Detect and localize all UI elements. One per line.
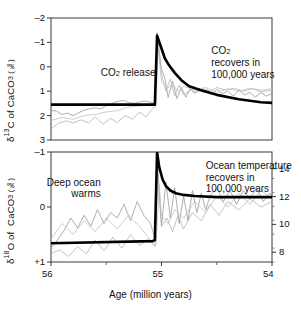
y-axis-label-delta13c: δ13C of CaCO3 (‰) [3,24,16,142]
x-tick-label: 55 [153,268,164,279]
y-tick-label: 0 [40,201,45,212]
annotation-line: Deep ocean [47,177,101,189]
y-tick-label: +1 [34,256,45,267]
annotation-co2-release: CO2 release [101,67,156,80]
right-axis-tick-label: 14 [279,163,290,174]
y-axis-label-delta18o: δ18O of CaCO3 (‰) [3,152,16,264]
right-axis-tick-label: 10 [279,218,290,229]
x-tick-label: 54 [263,268,274,279]
annotation-line: recovers in [211,57,274,69]
right-axis-tick-label: 12 [279,191,290,202]
y-tick-label: –1 [34,146,45,157]
y-tick-label: –2 [34,12,45,23]
x-tick-label: 56 [42,268,53,279]
annotation-line: 100,000 years [211,69,274,81]
x-axis-label: Age (million years) [0,289,301,300]
annotation-deep-ocean-warms: Deep ocean warms [47,177,101,200]
y-tick-label: 0 [40,61,45,72]
y-tick-label: 1 [40,85,45,96]
annotation-line: warms [47,188,101,200]
annotation-co2-recovers: CO2 recovers in 100,000 years [211,45,274,81]
right-axis-tick-label: 8 [279,246,284,257]
y-tick-label: 2 [40,110,45,121]
y-tick-label: 3 [40,134,45,145]
y-tick-label: –1 [34,36,45,47]
